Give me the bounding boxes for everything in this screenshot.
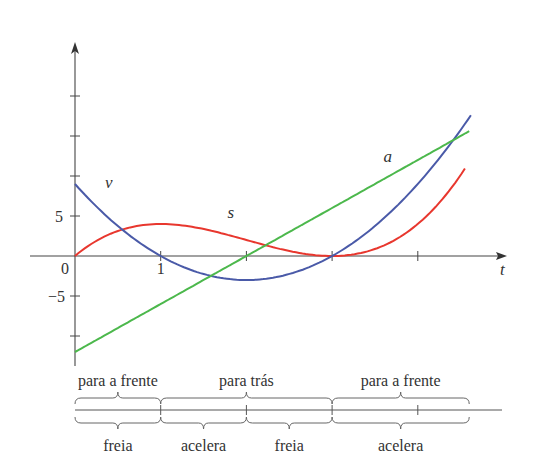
curve-label-a: a <box>384 147 393 166</box>
y-tick-label: 5 <box>55 208 63 225</box>
axes: 015−5t <box>30 42 507 366</box>
brace-speed <box>75 417 161 429</box>
series-v <box>75 115 471 280</box>
motion-timeline: para a frentepara tráspara a frentefreia… <box>75 372 502 454</box>
curve-label-v: v <box>105 173 113 192</box>
y-tick-label: −5 <box>48 288 65 305</box>
curves <box>75 115 471 352</box>
direction-label: para a frente <box>78 372 158 390</box>
speed-label: acelera <box>181 437 226 454</box>
direction-label: para trás <box>219 372 274 390</box>
curve-label-s: s <box>228 203 235 222</box>
x-tick-label: 1 <box>157 260 165 277</box>
motion-chart: 015−5t vsa para a frentepara tráspara a … <box>0 0 534 476</box>
brace-speed <box>246 417 332 429</box>
speed-label: freia <box>275 437 304 454</box>
speed-label: freia <box>103 437 132 454</box>
brace-speed <box>332 417 469 429</box>
curve-labels: vsa <box>105 147 392 222</box>
brace-direction <box>75 392 161 404</box>
brace-direction <box>161 392 332 404</box>
x-axis-label: t <box>500 260 506 279</box>
x-tick-label: 0 <box>61 260 69 277</box>
direction-label: para a frente <box>361 372 441 390</box>
speed-label: acelera <box>378 437 423 454</box>
brace-direction <box>332 392 469 404</box>
series-a <box>75 131 469 352</box>
brace-speed <box>161 417 247 429</box>
